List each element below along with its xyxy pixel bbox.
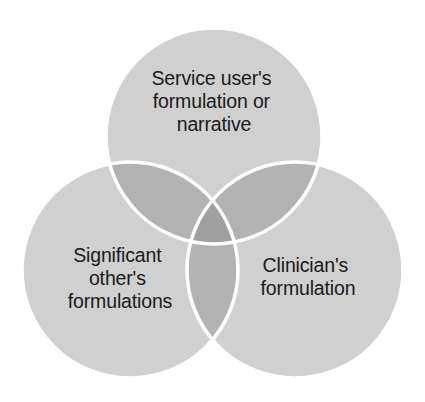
label-line: formulation: [261, 277, 356, 299]
venn-diagram-canvas: Service user's formulation or narrative …: [0, 0, 425, 402]
label-line: Service user's: [151, 67, 271, 89]
label-line: formulations: [68, 290, 173, 312]
label-line: Significant: [73, 244, 162, 266]
label-line: Clinician's: [263, 254, 349, 276]
venn-diagram-figure: Service user's formulation or narrative …: [0, 0, 425, 402]
label-line: other's: [89, 267, 146, 289]
label-line: formulation or: [153, 90, 271, 112]
label-line: narrative: [177, 113, 252, 135]
label-clinician: Clinician's formulation: [261, 254, 356, 299]
